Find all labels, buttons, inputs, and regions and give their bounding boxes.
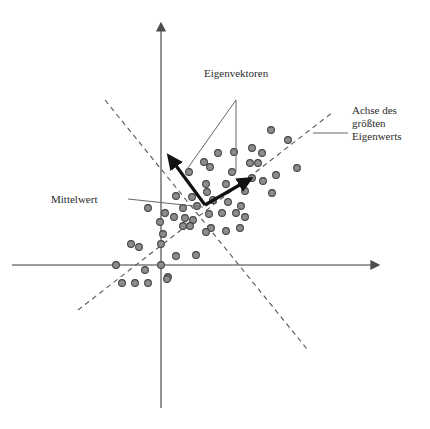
scatter-point: [260, 178, 267, 185]
scatter-point: [242, 188, 249, 195]
scatter-point: [204, 189, 211, 196]
scatter-point: [219, 210, 226, 217]
mean-label: Mittelwert: [51, 193, 97, 206]
scatter-point: [223, 181, 230, 188]
scatter-point: [158, 241, 165, 248]
scatter-point: [285, 137, 292, 144]
scatter-point: [229, 169, 236, 176]
principal-axis-major-line: [78, 112, 333, 310]
scatter-point: [136, 244, 143, 251]
scatter-point: [225, 199, 232, 206]
scatter-point: [223, 228, 230, 235]
eigenvectors-leader-line-diagonal: [185, 100, 236, 172]
eigenvector-scatter-figure: Eigenvektoren Achse desgrößtenEigenwerts…: [0, 0, 430, 429]
scatter-point: [269, 190, 276, 197]
scatter-point: [162, 210, 169, 217]
scatter-point: [207, 164, 214, 171]
scatter-point: [203, 181, 210, 188]
scatter-point: [255, 160, 262, 167]
scatter-point: [215, 150, 222, 157]
scatter-point: [233, 210, 240, 217]
scatter-point: [119, 280, 126, 287]
scatter-point: [145, 280, 152, 287]
scatter-point: [128, 241, 135, 248]
scatter-point: [182, 215, 189, 222]
scatter-point: [249, 175, 256, 182]
scatter-point-group: [113, 127, 301, 287]
dashed-principal-axes: [78, 100, 333, 349]
scatter-point: [160, 231, 167, 238]
largest-eigenvalue-axis-label-line3: Eigenwerts: [352, 130, 401, 142]
scatter-point: [142, 267, 149, 274]
largest-eigenvalue-axis-label-line2: größten: [352, 117, 386, 129]
scatter-point: [206, 211, 213, 218]
scatter-point: [247, 160, 254, 167]
scatter-point: [164, 276, 171, 283]
principal-axis-minor-line: [105, 100, 307, 349]
scatter-point: [193, 252, 200, 259]
scatter-point: [132, 280, 139, 287]
scatter-point: [201, 159, 208, 166]
largest-eigenvalue-axis-label-line1: Achse des: [352, 104, 397, 116]
scatter-point: [145, 205, 152, 212]
scatter-point: [173, 193, 180, 200]
scatter-point: [158, 262, 165, 269]
scatter-point: [173, 253, 180, 260]
scatter-point: [273, 172, 280, 179]
scatter-point: [180, 223, 187, 230]
scatter-point: [268, 127, 275, 134]
largest-eigenvalue-axis-label: Achse desgrößtenEigenwerts: [352, 104, 401, 143]
scatter-point: [157, 219, 164, 226]
eigenvectors-label: Eigenvektoren: [204, 67, 268, 80]
figure-canvas: [0, 0, 430, 429]
scatter-point: [238, 203, 245, 210]
scatter-point: [187, 223, 194, 230]
scatter-point: [203, 229, 210, 236]
scatter-point: [171, 214, 178, 221]
scatter-point: [294, 165, 301, 172]
scatter-point: [242, 214, 249, 221]
scatter-point: [249, 145, 256, 152]
scatter-point: [113, 262, 120, 269]
scatter-point: [237, 225, 244, 232]
scatter-point: [259, 150, 266, 157]
scatter-point: [189, 194, 196, 201]
